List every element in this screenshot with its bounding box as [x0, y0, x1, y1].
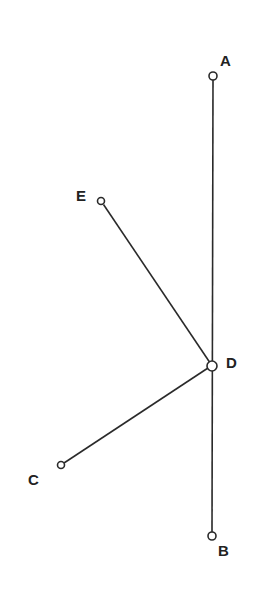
label-b: B: [218, 542, 229, 559]
segment-ab: [212, 80, 213, 532]
label-a: A: [220, 52, 231, 69]
label-d: D: [226, 354, 237, 371]
point-a: [209, 72, 217, 80]
label-c: C: [28, 471, 39, 488]
label-e: E: [76, 187, 86, 204]
point-b: [208, 532, 216, 540]
point-e: [98, 198, 105, 205]
point-c: [58, 462, 65, 469]
diagram-canvas: A B C D E: [0, 0, 258, 594]
segment-cd: [64, 368, 208, 463]
point-d: [207, 361, 217, 371]
segment-ed: [104, 205, 210, 363]
